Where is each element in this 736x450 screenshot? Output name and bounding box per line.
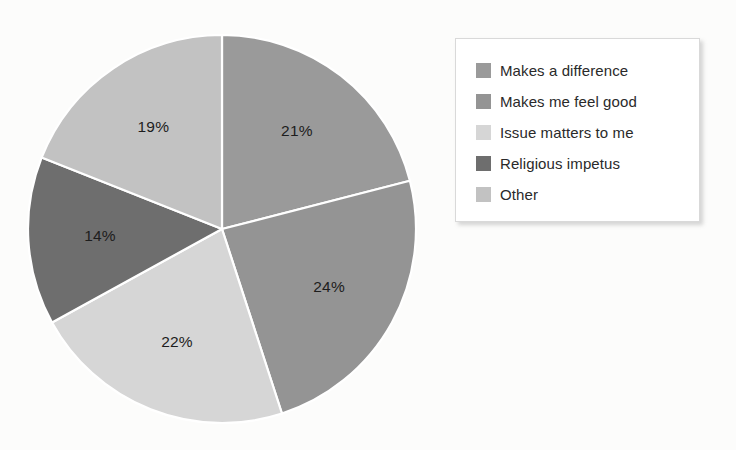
- legend-color-swatch-icon: [476, 94, 491, 109]
- legend-item-label: Religious impetus: [500, 155, 620, 172]
- pie-slice-value-label: 14%: [84, 227, 116, 244]
- pie-slice-value-label: 22%: [161, 333, 193, 350]
- chart-legend: Makes a differenceMakes me feel goodIssu…: [455, 38, 700, 222]
- legend-color-swatch-icon: [476, 156, 491, 171]
- legend-item[interactable]: Makes me feel good: [476, 86, 699, 117]
- legend-item[interactable]: Religious impetus: [476, 148, 699, 179]
- pie-chart: 21%24%22%14%19%: [27, 34, 417, 424]
- legend-item[interactable]: Makes a difference: [476, 55, 699, 86]
- pie-slice-value-label: 24%: [313, 278, 345, 295]
- legend-item[interactable]: Issue matters to me: [476, 117, 699, 148]
- legend-item-label: Makes a difference: [500, 62, 628, 79]
- legend-item-label: Other: [500, 186, 538, 203]
- legend-color-swatch-icon: [476, 63, 491, 78]
- legend-item[interactable]: Other: [476, 179, 699, 210]
- pie-chart-svg: 21%24%22%14%19%: [27, 34, 417, 424]
- pie-slice-value-label: 19%: [137, 118, 169, 135]
- legend-item-label: Issue matters to me: [500, 124, 634, 141]
- legend-color-swatch-icon: [476, 187, 491, 202]
- legend-color-swatch-icon: [476, 125, 491, 140]
- legend-item-label: Makes me feel good: [500, 93, 637, 110]
- pie-slice-value-label: 21%: [281, 122, 313, 139]
- chart-page: 21%24%22%14%19% Makes a differenceMakes …: [0, 0, 736, 450]
